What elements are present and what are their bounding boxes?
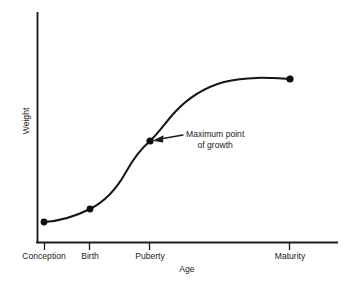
marker-maturity [286,75,293,82]
x-tick-label-maturity: Maturity [275,251,306,261]
marker-birth [87,206,94,213]
x-tick-label-conception: Conception [22,251,65,261]
marker-conception [41,219,48,226]
x-tick-label-birth: Birth [81,251,99,261]
growth-curve-figure: Weight Conception Birth Puberty Maturity… [0,0,347,297]
marker-maximum-point-of-growth [146,137,153,144]
annotation-line-1: Maximum point [186,129,244,140]
x-tick-label-puberty: Puberty [135,251,165,261]
annotation-maximum-point-of-growth: Maximum point of growth [186,129,244,150]
growth-curve-path [44,78,290,222]
y-axis-label: Weight [21,101,31,141]
x-axis-label: Age [179,264,194,274]
annotation-line-2: of growth [186,140,244,151]
